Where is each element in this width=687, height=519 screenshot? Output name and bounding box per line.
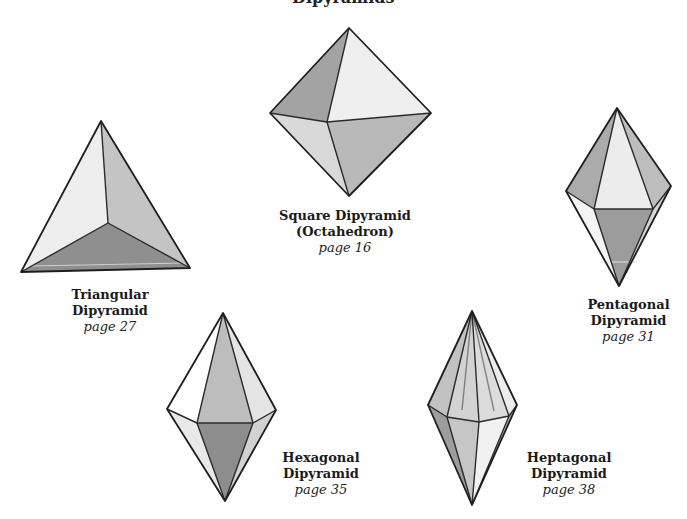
- triangular-dipyramid-drawing: [21, 121, 190, 272]
- label-square-dipyramid: Square Dipyramid (Octahedron) page 16: [270, 208, 420, 256]
- square-dipyramid-drawing: [270, 28, 431, 196]
- shape-name-line1: Pentagonal: [576, 297, 681, 313]
- label-heptagonal-dipyramid: Heptagonal Dipyramid page 38: [518, 450, 620, 498]
- shape-name-line2: Dipyramid: [518, 466, 620, 482]
- shape-name-line1: Hexagonal: [275, 450, 367, 466]
- label-hexagonal-dipyramid: Hexagonal Dipyramid page 35: [275, 450, 367, 498]
- page-reference: page 16: [270, 240, 420, 256]
- shape-name-line1: Triangular: [60, 287, 160, 303]
- page-reference: page 27: [60, 319, 160, 335]
- shape-name-line1: Square Dipyramid: [270, 208, 420, 224]
- pentagonal-dipyramid-drawing: [566, 108, 671, 286]
- page-reference: page 35: [275, 482, 367, 498]
- dipyramids-figure: Dipyramids: [0, 0, 687, 519]
- shape-name-line2: (Octahedron): [270, 224, 420, 240]
- hexagonal-dipyramid-drawing: [167, 313, 276, 501]
- label-pentagonal-dipyramid: Pentagonal Dipyramid page 31: [576, 297, 681, 345]
- shape-name-line2: Dipyramid: [576, 313, 681, 329]
- label-triangular-dipyramid: Triangular Dipyramid page 27: [60, 287, 160, 335]
- shape-name-line2: Dipyramid: [60, 303, 160, 319]
- page-reference: page 38: [518, 482, 620, 498]
- polyhedra-drawings: [0, 0, 687, 519]
- shape-name-line1: Heptagonal: [518, 450, 620, 466]
- page-reference: page 31: [576, 329, 681, 345]
- shape-name-line2: Dipyramid: [275, 466, 367, 482]
- heptagonal-dipyramid-drawing: [428, 311, 517, 505]
